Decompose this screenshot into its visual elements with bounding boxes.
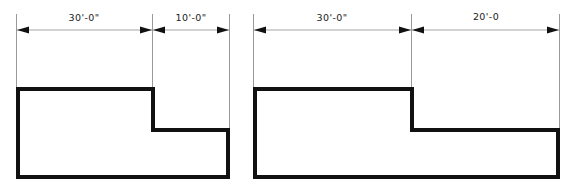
left-dimension-label-1: 30'-0"	[69, 12, 100, 23]
left-arrowhead-2-end	[217, 27, 229, 34]
left-plan-group: 30'-0" 10'-0"	[17, 12, 230, 177]
drawing-sheet: 30'-0" 10'-0" 30'-0" 20'-0	[0, 0, 575, 192]
right-arrowhead-2-end	[547, 27, 559, 34]
right-plan-group: 30'-0" 20'-0	[254, 11, 560, 177]
right-plan-outline	[255, 89, 558, 177]
right-dimension-label-2: 20'-0	[473, 11, 499, 22]
left-arrowhead-1-end	[140, 27, 152, 34]
right-dimension-label-1: 30'-0"	[317, 12, 348, 23]
technical-drawing-canvas: 30'-0" 10'-0" 30'-0" 20'-0	[0, 0, 575, 192]
left-dimension-label-2: 10'-0"	[176, 12, 207, 23]
right-arrowhead-1-start	[254, 27, 266, 34]
right-arrowhead-1-end	[399, 27, 411, 34]
left-arrowhead-2-start	[153, 27, 165, 34]
right-arrowhead-2-start	[412, 27, 424, 34]
left-arrowhead-1-start	[17, 27, 29, 34]
left-plan-outline	[18, 89, 228, 177]
